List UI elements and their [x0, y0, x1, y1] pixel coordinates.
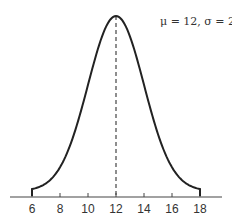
- x-tick-label: 8: [57, 202, 64, 216]
- x-tick-label: 18: [193, 202, 207, 216]
- bell-curve: [32, 16, 200, 196]
- x-tick-label: 12: [109, 202, 123, 216]
- x-tick-label: 6: [29, 202, 36, 216]
- normal-distribution-chart: 681012141618 μ = 12, σ = 2: [0, 0, 232, 223]
- x-tick-label: 10: [81, 202, 95, 216]
- parameter-annotation: μ = 12, σ = 2: [160, 15, 232, 28]
- x-tick-label: 14: [137, 202, 151, 216]
- x-tick-label: 16: [165, 202, 179, 216]
